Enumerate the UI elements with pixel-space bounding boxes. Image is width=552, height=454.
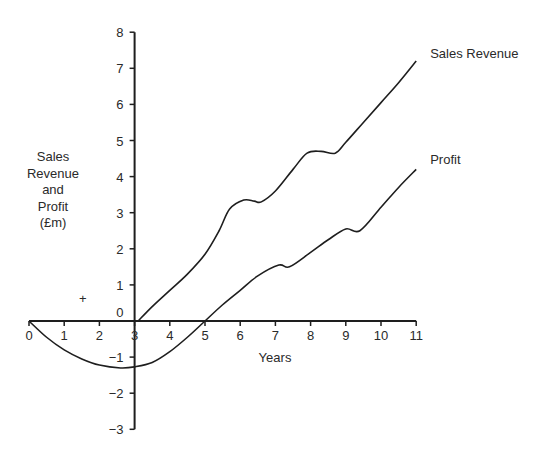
y-axis-title-line: (£m) [40, 215, 67, 230]
x-tick-label: 4 [166, 328, 173, 343]
x-axis-title: Years [259, 350, 292, 365]
y-tick-label: 4 [116, 170, 123, 185]
y-axis-title-line: Revenue [27, 166, 79, 181]
x-tick-label: 2 [96, 328, 103, 343]
x-tick-label: 0 [25, 328, 32, 343]
x-axis-ticks: 01234567891011 [25, 321, 423, 343]
y-tick-label: −3 [109, 422, 124, 437]
x-tick-label: 5 [201, 328, 208, 343]
x-tick-label: 7 [272, 328, 279, 343]
annotations: + [79, 291, 87, 306]
y-axis-ticks: −3−2−1012345678 [109, 25, 135, 437]
y-tick-label: 5 [116, 134, 123, 149]
y-tick-label: −2 [109, 386, 124, 401]
x-tick-label: 1 [61, 328, 68, 343]
profit-label: Profit [430, 152, 461, 167]
x-tick-label: 11 [409, 328, 423, 343]
plus-marker: + [79, 291, 87, 306]
y-axis-title: SalesRevenueandProfit(£m) [27, 149, 79, 230]
y-tick-label: 2 [116, 242, 123, 257]
y-axis-title-line: and [42, 182, 64, 197]
x-tick-label: 8 [307, 328, 314, 343]
y-tick-label: 7 [116, 61, 123, 76]
y-tick-label: −1 [109, 350, 124, 365]
y-axis-title-line: Profit [38, 199, 69, 214]
y-tick-label: 1 [116, 278, 123, 293]
sales-revenue-label: Sales Revenue [430, 46, 518, 61]
series-labels: Sales RevenueProfit [430, 46, 518, 167]
x-tick-label: 10 [374, 328, 388, 343]
y-axis-title-line: Sales [37, 149, 70, 164]
x-tick-label: 3 [131, 328, 138, 343]
y-tick-label: 8 [116, 25, 123, 40]
sales-revenue-line [138, 61, 416, 321]
y-tick-label: 6 [116, 97, 123, 112]
y-tick-label: 0 [116, 305, 123, 320]
line-chart: −3−2−1012345678 01234567891011 Sales Rev… [0, 0, 552, 454]
profit-line [29, 169, 416, 368]
y-tick-label: 3 [116, 206, 123, 221]
x-tick-label: 9 [342, 328, 349, 343]
x-tick-label: 6 [237, 328, 244, 343]
